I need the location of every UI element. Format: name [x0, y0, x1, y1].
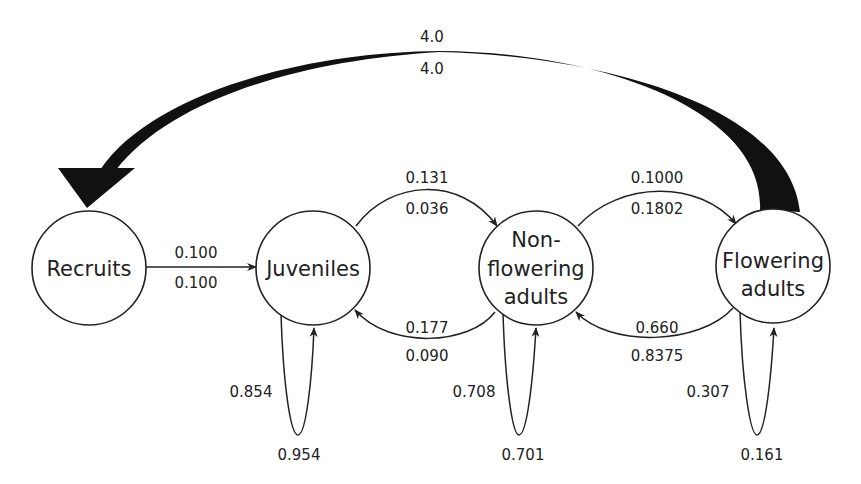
life-cycle-diagram: 4.0 4.0 0.100 0.100 0.131 0.036 0.177 0.…: [0, 0, 861, 484]
edge-label-bottom: 0.8375: [631, 347, 684, 365]
node-label-line3: adults: [504, 285, 569, 309]
fecundity-arrowhead: [58, 168, 135, 208]
fecundity-top-label: 4.0: [420, 28, 444, 46]
self-loop-bottom-label: 0.954: [278, 446, 321, 464]
self-loop-left-label: 0.854: [230, 383, 273, 401]
edge-nonflowering-to-juveniles: 0.177 0.090: [355, 310, 495, 365]
edge-label-top: 0.100: [175, 244, 218, 262]
edge-label-top: 0.177: [406, 319, 449, 337]
edge-nonflowering-to-flowering: 0.1000 0.1802: [578, 169, 736, 226]
edge-recruits-to-juveniles: 0.100 0.100: [146, 244, 256, 292]
edge-flowering-to-nonflowering: 0.660 0.8375: [576, 308, 733, 365]
node-label-line2: flowering: [487, 257, 584, 281]
node-recruits: Recruits: [32, 211, 146, 325]
fecundity-arrow-body: [100, 51, 800, 212]
node-flowering-adults: Flowering adults: [716, 209, 830, 323]
self-loop-juveniles: 0.854 0.954: [230, 313, 321, 464]
self-loop-flowering: 0.307 0.161: [687, 312, 784, 464]
node-label-line1: Flowering: [722, 249, 824, 273]
node-juveniles: Juveniles: [256, 211, 370, 325]
edge-juveniles-to-nonflowering: 0.131 0.036: [356, 169, 497, 226]
edge-label-top: 0.131: [406, 169, 449, 187]
edge-label-top: 0.660: [636, 319, 679, 337]
self-loop-nonflowering: 0.708 0.701: [453, 313, 545, 464]
self-loop-left-label: 0.307: [687, 383, 730, 401]
node-label-line1: Non-: [511, 228, 560, 252]
node-label-line2: adults: [741, 277, 806, 301]
node-label: Juveniles: [264, 257, 360, 281]
edge-label-top: 0.1000: [631, 169, 684, 187]
fecundity-bottom-label: 4.0: [420, 60, 444, 78]
edge-label-bottom: 0.1802: [631, 200, 684, 218]
node-label: Recruits: [46, 257, 131, 281]
edge-label-bottom: 0.036: [406, 200, 449, 218]
edge-label-bottom: 0.100: [175, 274, 218, 292]
node-nonflowering-adults: Non- flowering adults: [479, 211, 593, 325]
edge-label-bottom: 0.090: [406, 347, 449, 365]
self-loop-left-label: 0.708: [453, 383, 496, 401]
self-loop-bottom-label: 0.701: [502, 446, 545, 464]
self-loop-bottom-label: 0.161: [741, 446, 784, 464]
